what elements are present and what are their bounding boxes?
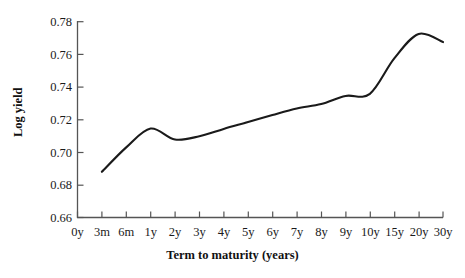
y-tick-marks: [78, 22, 84, 218]
y-tick-label: 0.70: [26, 147, 72, 160]
y-tick-label: 0.72: [26, 114, 72, 127]
y-tick-label: 0.66: [26, 212, 72, 225]
x-tick-marks: [78, 212, 444, 218]
y-tick-label: 0.68: [26, 179, 72, 192]
yield-curve-chart: 0.78 0.76 0.74 0.72 0.70 0.68 0.66 0y 3m…: [0, 0, 465, 278]
y-tick-label: 0.74: [26, 81, 72, 94]
y-tick-label: 0.76: [26, 49, 72, 62]
y-tick-label: 0.78: [26, 16, 72, 29]
y-axis-title: Log yield: [12, 72, 25, 152]
x-tick-label: 30y: [426, 226, 460, 239]
yield-curve-line: [102, 33, 443, 171]
x-axis-title: Term to maturity (years): [0, 249, 465, 262]
